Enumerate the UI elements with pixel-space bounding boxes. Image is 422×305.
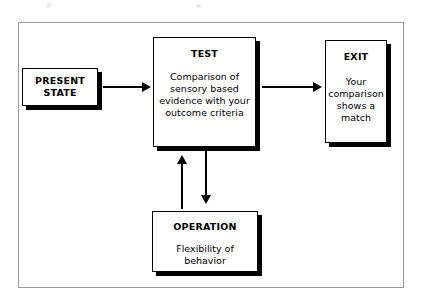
node-test[interactable]: TEST Comparison of sensory based evidenc… <box>153 37 256 147</box>
node-present-state[interactable]: PRESENT STATE <box>22 68 98 106</box>
connector-operation-to-test <box>181 162 183 209</box>
node-operation[interactable]: OPERATION Flexibility of behavior <box>152 211 258 272</box>
flowchart-diagram: PRESENT STATE TEST Comparison of sensory… <box>0 0 422 305</box>
arrow-down-icon <box>201 195 211 204</box>
connector-test-to-operation <box>205 151 207 197</box>
node-operation-title: OPERATION <box>173 221 236 233</box>
arrow-right-icon <box>142 82 151 92</box>
node-present-state-title: PRESENT STATE <box>35 75 85 99</box>
node-test-title: TEST <box>191 48 218 60</box>
scan-speckle <box>46 3 51 8</box>
node-test-body: Comparison of sensory based evidence wit… <box>155 71 254 120</box>
scan-speckle <box>196 4 201 8</box>
arrow-up-icon <box>177 155 187 164</box>
node-exit-body: Your comparison shows a match <box>324 76 387 125</box>
connector-test-to-exit <box>262 86 314 88</box>
node-operation-body: Flexibility of behavior <box>172 243 238 267</box>
node-exit-title: EXIT <box>344 51 369 63</box>
arrow-right-icon <box>313 82 322 92</box>
node-exit[interactable]: EXIT Your comparison shows a match <box>325 40 387 143</box>
connector-present-state-to-test <box>103 86 143 88</box>
